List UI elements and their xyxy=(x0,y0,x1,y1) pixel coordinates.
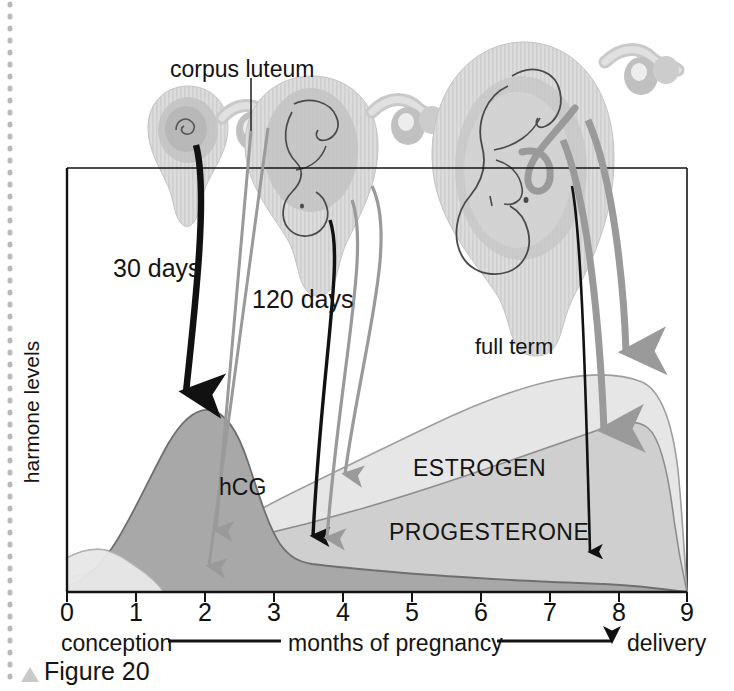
x-axis-ticks xyxy=(67,592,687,602)
curve-label-estrogen: ESTROGEN xyxy=(413,455,546,482)
x-tick-label: 3 xyxy=(259,598,289,627)
annotation-full-term: full term xyxy=(475,334,553,360)
x-tick-label: 5 xyxy=(397,598,427,627)
x-tick-label: 7 xyxy=(535,598,565,627)
figure-container: harmone levels corpus luteum 30 days 120… xyxy=(0,0,734,691)
pregnancy-hormone-figure xyxy=(0,0,734,691)
annotation-120-days: 120 days xyxy=(252,285,353,314)
curve-label-progesterone: PROGESTERONE xyxy=(389,519,589,546)
embryo-illustration-120-days xyxy=(245,76,445,296)
curve-label-hcg: hCG xyxy=(219,474,266,501)
annotation-30-days: 30 days xyxy=(113,254,201,283)
x-tick-label: 4 xyxy=(328,598,358,627)
x-tick-label: 6 xyxy=(466,598,496,627)
annotation-corpus-luteum: corpus luteum xyxy=(170,56,314,83)
x-tick-label: 8 xyxy=(604,598,634,627)
x-axis-left-label: conception xyxy=(61,630,172,657)
embryo-illustration-full-term xyxy=(432,42,679,356)
x-tick-label: 1 xyxy=(121,598,151,627)
x-axis-center-label: months of pregnancy xyxy=(288,630,503,657)
figure-caption: Figure 20 xyxy=(44,657,150,686)
y-axis-label: harmone levels xyxy=(20,322,44,502)
triangle-marker-icon xyxy=(21,667,39,682)
x-tick-label: 9 xyxy=(672,598,702,627)
x-tick-label: 2 xyxy=(190,598,220,627)
x-axis-right-label: delivery xyxy=(627,630,706,657)
x-tick-label: 0 xyxy=(52,598,82,627)
